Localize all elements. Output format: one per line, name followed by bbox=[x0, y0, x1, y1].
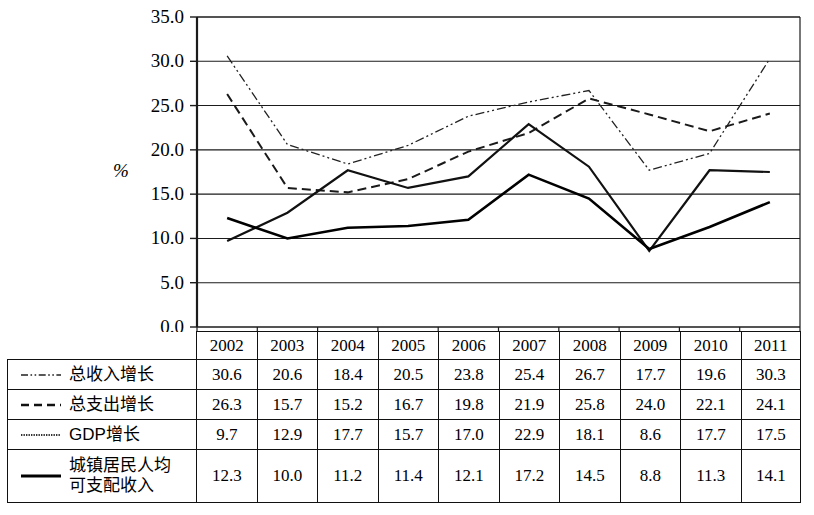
legend-inner: 总收入增长 bbox=[8, 360, 196, 389]
series-legend-label: GDP增长 bbox=[69, 425, 140, 445]
table-row: 城镇居民人均 可支配收入12.310.011.211.412.117.214.5… bbox=[8, 450, 801, 503]
y-axis-tick-label: 15.0 bbox=[151, 183, 184, 204]
data-cell: 26.3 bbox=[197, 390, 258, 420]
data-cell: 8.6 bbox=[620, 420, 681, 450]
y-axis-tick-label: 20.0 bbox=[151, 139, 184, 160]
y-axis-unit-label: % bbox=[104, 160, 138, 182]
series-legend-cell: 总支出增长 bbox=[8, 390, 197, 420]
data-cell: 20.5 bbox=[378, 360, 439, 390]
year-column-header: 2009 bbox=[620, 332, 681, 360]
data-cell: 15.7 bbox=[257, 390, 318, 420]
year-column-header: 2003 bbox=[257, 332, 318, 360]
solid-thick-line-icon bbox=[20, 469, 62, 483]
table-row: 总收入增长30.620.618.420.523.825.426.717.719.… bbox=[8, 360, 801, 390]
y-axis-tick-label: 35.0 bbox=[151, 6, 184, 27]
data-cell: 22.1 bbox=[681, 390, 742, 420]
dash-dot-dot-line-icon bbox=[20, 368, 62, 382]
data-cell: 25.8 bbox=[560, 390, 621, 420]
data-cell: 15.7 bbox=[378, 420, 439, 450]
year-column-header: 2011 bbox=[741, 332, 801, 360]
data-cell: 24.0 bbox=[620, 390, 681, 420]
series-line-2 bbox=[227, 124, 770, 251]
data-cell: 18.1 bbox=[560, 420, 621, 450]
header-corner-cell bbox=[8, 332, 197, 360]
series-legend-cell: GDP增长 bbox=[8, 420, 197, 450]
data-cell: 22.9 bbox=[499, 420, 560, 450]
y-axis-tick-label: 0.0 bbox=[160, 316, 184, 332]
year-column-header: 2008 bbox=[560, 332, 621, 360]
series-legend-label: 总收入增长 bbox=[69, 365, 154, 385]
data-cell: 24.1 bbox=[741, 390, 801, 420]
year-column-header: 2010 bbox=[681, 332, 742, 360]
data-cell: 9.7 bbox=[197, 420, 258, 450]
data-cell: 8.8 bbox=[620, 450, 681, 503]
data-cell: 17.7 bbox=[620, 360, 681, 390]
data-cell: 12.3 bbox=[197, 450, 258, 503]
table-header-row: 2002200320042005200620072008200920102011 bbox=[8, 332, 801, 360]
data-cell: 17.0 bbox=[439, 420, 500, 450]
data-cell: 14.5 bbox=[560, 450, 621, 503]
series-legend-label: 总支出增长 bbox=[69, 395, 154, 415]
series-data-table: 2002200320042005200620072008200920102011… bbox=[7, 331, 801, 503]
data-cell: 26.7 bbox=[560, 360, 621, 390]
series-legend-cell: 城镇居民人均 可支配收入 bbox=[8, 450, 197, 503]
data-cell: 16.7 bbox=[378, 390, 439, 420]
data-cell: 19.6 bbox=[681, 360, 742, 390]
y-axis-tick-label: 10.0 bbox=[151, 227, 184, 248]
legend-inner: 城镇居民人均 可支配收入 bbox=[8, 450, 196, 502]
y-axis-tick-label: 25.0 bbox=[151, 95, 184, 116]
data-cell: 25.4 bbox=[499, 360, 560, 390]
y-axis-tick-label: 5.0 bbox=[160, 272, 184, 293]
data-cell: 14.1 bbox=[741, 450, 801, 503]
data-cell: 11.2 bbox=[318, 450, 379, 503]
data-cell: 17.2 bbox=[499, 450, 560, 503]
table-row: GDP增长9.712.917.715.717.022.918.18.617.71… bbox=[8, 420, 801, 450]
data-cell: 10.0 bbox=[257, 450, 318, 503]
data-cell: 30.3 bbox=[741, 360, 801, 390]
data-cell: 12.1 bbox=[439, 450, 500, 503]
dashed-line-icon bbox=[20, 398, 62, 412]
series-legend-label: 城镇居民人均 可支配收入 bbox=[69, 456, 171, 495]
data-cell: 20.6 bbox=[257, 360, 318, 390]
table-body: 2002200320042005200620072008200920102011… bbox=[8, 332, 801, 503]
year-column-header: 2004 bbox=[318, 332, 379, 360]
y-axis-tick-label: 30.0 bbox=[151, 50, 184, 71]
table-row: 总支出增长26.315.715.216.719.821.925.824.022.… bbox=[8, 390, 801, 420]
data-cell: 17.7 bbox=[681, 420, 742, 450]
data-cell: 30.6 bbox=[197, 360, 258, 390]
data-cell: 18.4 bbox=[318, 360, 379, 390]
data-cell: 19.8 bbox=[439, 390, 500, 420]
data-cell: 12.9 bbox=[257, 420, 318, 450]
series-line-0 bbox=[227, 56, 770, 170]
dotted-line-icon bbox=[20, 428, 62, 442]
chart-page: 35.030.025.020.015.010.05.00.0 % 2002200… bbox=[0, 0, 814, 515]
year-column-header: 2006 bbox=[439, 332, 500, 360]
data-cell: 15.2 bbox=[318, 390, 379, 420]
series-legend-cell: 总收入增长 bbox=[8, 360, 197, 390]
year-column-header: 2005 bbox=[378, 332, 439, 360]
line-chart: 35.030.025.020.015.010.05.00.0 % bbox=[0, 0, 814, 332]
data-cell: 23.8 bbox=[439, 360, 500, 390]
legend-inner: 总支出增长 bbox=[8, 390, 196, 419]
data-cell: 17.5 bbox=[741, 420, 801, 450]
data-cell: 21.9 bbox=[499, 390, 560, 420]
data-cell: 11.3 bbox=[681, 450, 742, 503]
year-column-header: 2007 bbox=[499, 332, 560, 360]
data-cell: 17.7 bbox=[318, 420, 379, 450]
legend-inner: GDP增长 bbox=[8, 420, 196, 449]
year-column-header: 2002 bbox=[197, 332, 258, 360]
data-cell: 11.4 bbox=[378, 450, 439, 503]
